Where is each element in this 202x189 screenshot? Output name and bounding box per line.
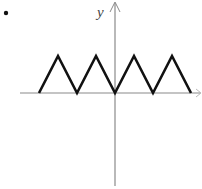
graph: y <box>0 0 202 189</box>
bullet-marker <box>4 11 8 15</box>
y-axis-label: y <box>95 4 104 20</box>
